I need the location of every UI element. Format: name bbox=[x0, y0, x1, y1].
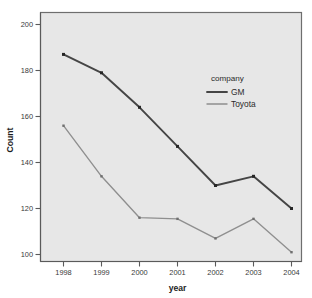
data-point-gm-2001 bbox=[176, 145, 179, 148]
chart-container: 200 180 160 140 120 100 1998 1999 2000 2… bbox=[0, 0, 312, 298]
data-point-gm-2002 bbox=[214, 184, 217, 187]
data-point-gm-2003 bbox=[252, 175, 255, 178]
y-tick-label-160: 160 bbox=[21, 112, 33, 121]
x-tick-label-1998: 1998 bbox=[55, 268, 71, 277]
legend-label-gm: GM bbox=[231, 87, 245, 97]
x-tick-label-2002: 2002 bbox=[207, 268, 223, 277]
legend-label-toyota: Toyota bbox=[231, 99, 256, 109]
data-point-gm-2000 bbox=[138, 106, 141, 109]
data-point-gm-2004 bbox=[290, 207, 293, 210]
line-chart: 200 180 160 140 120 100 1998 1999 2000 2… bbox=[0, 0, 312, 298]
y-tick-label-180: 180 bbox=[21, 66, 33, 75]
data-point-toyota-2000 bbox=[138, 217, 140, 219]
x-tick-label-2000: 2000 bbox=[131, 268, 147, 277]
data-point-toyota-2003 bbox=[252, 218, 254, 220]
x-tick-label-2003: 2003 bbox=[245, 268, 261, 277]
x-tick-label-2001: 2001 bbox=[169, 268, 185, 277]
legend-title: company bbox=[211, 74, 245, 83]
data-point-toyota-2004 bbox=[290, 251, 292, 253]
y-tick-label-200: 200 bbox=[21, 20, 33, 29]
y-axis-title: Count bbox=[5, 127, 15, 152]
data-point-toyota-2002 bbox=[214, 237, 216, 239]
y-tick-label-120: 120 bbox=[21, 204, 33, 213]
data-point-toyota-2001 bbox=[176, 218, 178, 220]
x-axis-title: year bbox=[169, 283, 187, 293]
y-tick-label-140: 140 bbox=[21, 158, 33, 167]
data-point-gm-1999 bbox=[100, 71, 103, 74]
plot-area bbox=[41, 13, 302, 262]
data-point-gm-1998 bbox=[62, 53, 65, 56]
y-tick-label-100: 100 bbox=[21, 250, 33, 259]
x-tick-label-2004: 2004 bbox=[283, 268, 299, 277]
data-point-toyota-1999 bbox=[100, 175, 102, 177]
x-tick-label-1999: 1999 bbox=[93, 268, 109, 277]
data-point-toyota-1998 bbox=[62, 125, 64, 127]
